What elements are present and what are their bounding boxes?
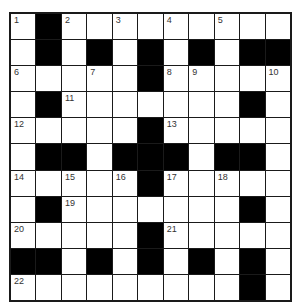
crossword-cell[interactable] [240,66,264,91]
crossword-cell[interactable] [240,171,264,196]
crossword-cell[interactable] [215,223,239,248]
crossword-cell[interactable] [164,275,188,300]
crossword-cell[interactable] [240,14,264,39]
crossword-cell[interactable] [189,144,213,169]
crossword-cell[interactable]: 4 [164,14,188,39]
crossword-cell[interactable] [215,92,239,117]
crossword-cell[interactable]: 16 [113,171,137,196]
crossword-cell[interactable] [87,118,111,143]
crossword-cell[interactable] [164,197,188,222]
crossword-cell[interactable] [87,92,111,117]
crossword-cell[interactable] [266,249,290,274]
crossword-cell[interactable] [113,275,137,300]
crossword-cell[interactable]: 10 [266,66,290,91]
crossword-cell[interactable] [164,92,188,117]
crossword-cell[interactable] [36,275,60,300]
crossword-cell[interactable] [87,275,111,300]
crossword-cell[interactable]: 2 [62,14,86,39]
crossword-cell[interactable] [240,223,264,248]
clue-number: 1 [14,16,19,25]
crossword-cell[interactable] [11,92,35,117]
crossword-cell[interactable] [113,197,137,222]
crossword-cell[interactable] [62,40,86,65]
crossword-cell[interactable]: 13 [164,118,188,143]
crossword-cell[interactable]: 22 [11,275,35,300]
crossword-cell[interactable] [62,249,86,274]
crossword-cell[interactable] [215,40,239,65]
crossword-cell[interactable]: 6 [11,66,35,91]
crossword-cell[interactable]: 15 [62,171,86,196]
crossword-cell[interactable] [36,223,60,248]
crossword-cell[interactable] [62,223,86,248]
black-square [215,144,239,169]
crossword-cell[interactable] [266,171,290,196]
crossword-cell[interactable] [215,66,239,91]
crossword-cell[interactable] [11,40,35,65]
crossword-cell[interactable] [266,118,290,143]
black-square [87,40,111,65]
crossword-cell[interactable]: 17 [164,171,188,196]
crossword-cell[interactable] [266,223,290,248]
black-square [240,144,264,169]
crossword-cell[interactable] [215,118,239,143]
crossword-cell[interactable] [215,275,239,300]
crossword-cell[interactable]: 18 [215,171,239,196]
crossword-cell[interactable] [11,197,35,222]
crossword-cell[interactable] [240,118,264,143]
crossword-cell[interactable] [36,118,60,143]
crossword-cell[interactable] [266,92,290,117]
crossword-cell[interactable]: 11 [62,92,86,117]
crossword-cell[interactable]: 21 [164,223,188,248]
crossword-cell[interactable]: 20 [11,223,35,248]
crossword-cell[interactable]: 14 [11,171,35,196]
clue-number: 11 [65,94,74,103]
crossword-grid: 12345678910111213141516171819202122 [9,12,292,302]
crossword-cell[interactable] [164,249,188,274]
crossword-cell[interactable]: 9 [189,66,213,91]
crossword-cell[interactable] [62,66,86,91]
crossword-cell[interactable] [11,144,35,169]
crossword-cell[interactable] [36,171,60,196]
crossword-cell[interactable] [62,275,86,300]
crossword-cell[interactable]: 12 [11,118,35,143]
crossword-cell[interactable]: 3 [113,14,137,39]
crossword-cell[interactable] [87,223,111,248]
crossword-cell[interactable]: 1 [11,14,35,39]
crossword-cell[interactable] [138,197,162,222]
crossword-cell[interactable] [113,92,137,117]
crossword-cell[interactable] [87,197,111,222]
crossword-cell[interactable] [113,40,137,65]
crossword-cell[interactable] [113,249,137,274]
crossword-cell[interactable] [113,223,137,248]
crossword-cell[interactable] [113,66,137,91]
crossword-cell[interactable] [87,14,111,39]
crossword-cell[interactable] [215,249,239,274]
crossword-cell[interactable] [215,197,239,222]
crossword-cell[interactable] [189,92,213,117]
crossword-cell[interactable] [138,14,162,39]
clue-number: 17 [167,173,177,182]
crossword-cell[interactable] [113,118,137,143]
crossword-cell[interactable]: 5 [215,14,239,39]
crossword-cell[interactable]: 7 [87,66,111,91]
black-square [164,144,188,169]
crossword-cell[interactable] [189,275,213,300]
crossword-cell[interactable] [62,118,86,143]
crossword-cell[interactable]: 8 [164,66,188,91]
crossword-cell[interactable] [138,92,162,117]
crossword-cell[interactable] [87,144,111,169]
crossword-cell[interactable] [36,66,60,91]
crossword-cell[interactable] [266,197,290,222]
crossword-cell[interactable] [164,40,188,65]
crossword-cell[interactable] [189,14,213,39]
crossword-cell[interactable] [266,14,290,39]
crossword-cell[interactable] [266,275,290,300]
crossword-cell[interactable] [189,171,213,196]
crossword-cell[interactable] [266,144,290,169]
crossword-cell[interactable]: 19 [62,197,86,222]
crossword-cell[interactable] [189,118,213,143]
crossword-cell[interactable] [138,275,162,300]
crossword-cell[interactable] [189,223,213,248]
crossword-cell[interactable] [87,171,111,196]
crossword-cell[interactable] [189,197,213,222]
